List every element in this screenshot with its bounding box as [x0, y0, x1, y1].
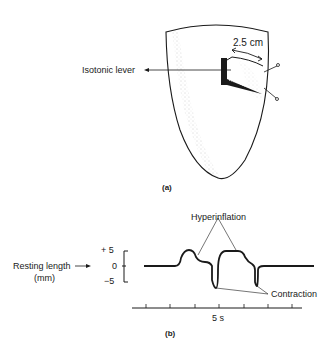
hyperinflation-leaders	[198, 218, 236, 255]
heart-illustration	[166, 25, 269, 182]
y-tick-minus5: −5	[104, 277, 114, 286]
time-axis	[132, 304, 302, 308]
panel-a-label: (a)	[162, 184, 172, 192]
distance-arrow-icon	[232, 48, 262, 61]
length-trace	[144, 250, 314, 288]
distance-label: 2.5 cm	[233, 38, 263, 48]
y-axis-unit: (mm)	[34, 274, 55, 283]
resting-length-arrow	[75, 264, 91, 268]
lever-label: Isotonic lever	[82, 66, 135, 75]
lever-pointer-arrow	[144, 68, 231, 72]
time-scale-label: 5 s	[212, 314, 224, 323]
contraction-leaders	[216, 286, 268, 294]
y-tick-0: 0	[112, 262, 117, 271]
hyperinflation-annotation: Hyperinflation	[191, 213, 246, 222]
y-tick-plus5: + 5	[101, 246, 114, 255]
figure-canvas	[0, 0, 334, 352]
y-axis-bracket	[122, 251, 128, 282]
panel-b-label: (b)	[165, 330, 175, 338]
contraction-annotation: Contraction	[271, 290, 317, 299]
y-axis-label: Resting length	[13, 262, 71, 271]
